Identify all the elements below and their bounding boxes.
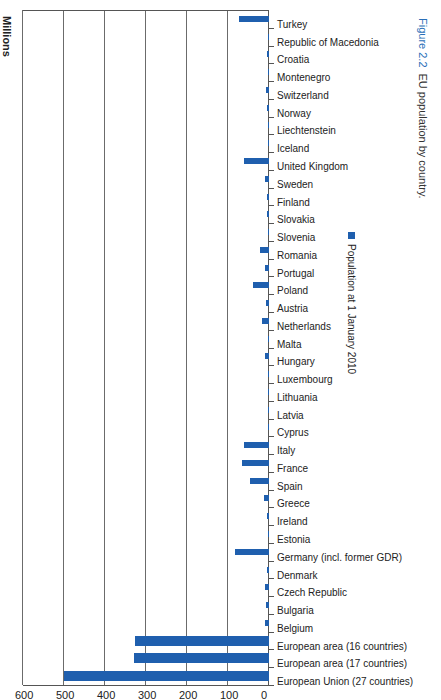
x-tick	[269, 63, 274, 64]
category-label: Germany (incl. former GDR)	[277, 552, 402, 563]
x-tick	[269, 525, 274, 526]
category-label: Portugal	[277, 268, 314, 279]
legend: Population at 1 January 2010	[346, 232, 357, 374]
category-label: European area (16 countries)	[277, 641, 407, 652]
bar	[262, 318, 269, 324]
bar	[268, 229, 269, 235]
category-label: Malta	[277, 339, 301, 350]
gridline	[63, 10, 64, 685]
y-tick-label: 600	[15, 689, 33, 700]
category-label: Croatia	[277, 54, 309, 65]
x-tick	[269, 490, 274, 491]
bar	[267, 513, 269, 519]
x-tick	[269, 99, 274, 100]
category-label: Austria	[277, 303, 308, 314]
bar	[265, 584, 269, 590]
gridline	[145, 10, 146, 685]
bar	[265, 176, 269, 182]
category-label: European area (17 countries)	[277, 658, 407, 669]
bar	[268, 140, 269, 146]
category-label: Republic of Macedonia	[277, 37, 379, 48]
x-tick	[269, 401, 274, 402]
category-label: France	[277, 463, 308, 474]
x-tick	[269, 561, 274, 562]
x-tick	[269, 223, 274, 224]
chart-canvas: Millions Population at 1 January 2010 Fi…	[0, 0, 441, 700]
y-tick-label: 0	[261, 689, 267, 700]
category-label: Finland	[277, 197, 310, 208]
category-label: Switzerland	[277, 90, 329, 101]
category-label: Spain	[277, 481, 303, 492]
category-label: Sweden	[277, 179, 313, 190]
x-tick	[269, 28, 274, 29]
y-tick-label: 400	[97, 689, 115, 700]
bar	[260, 247, 269, 253]
x-tick	[269, 578, 274, 579]
category-label: Montenegro	[277, 72, 330, 83]
category-label: Turkey	[277, 19, 307, 30]
category-label: Poland	[277, 285, 308, 296]
x-tick	[269, 205, 274, 206]
category-label: Bulgaria	[277, 605, 314, 616]
x-tick	[269, 276, 274, 277]
bar	[265, 265, 269, 271]
x-tick	[269, 632, 274, 633]
x-tick	[269, 330, 274, 331]
bar	[266, 602, 269, 608]
x-tick	[269, 134, 274, 135]
category-label: Greece	[277, 498, 310, 509]
plot-frame	[23, 685, 269, 686]
category-label: Norway	[277, 108, 311, 119]
bar	[268, 424, 269, 430]
bar	[268, 389, 269, 395]
x-tick	[269, 241, 274, 242]
bar	[268, 371, 269, 377]
x-tick	[269, 46, 274, 47]
x-tick	[269, 454, 274, 455]
x-tick	[269, 436, 274, 437]
x-tick	[269, 614, 274, 615]
bar	[267, 194, 269, 200]
legend-swatch	[348, 232, 355, 239]
y-tick-label: 500	[56, 689, 74, 700]
category-label: European Union (27 countries)	[277, 676, 413, 687]
gridline	[227, 10, 228, 685]
category-label: Latvia	[277, 410, 304, 421]
category-label: Cyprus	[277, 427, 309, 438]
category-label: Iceland	[277, 143, 309, 154]
x-tick	[269, 419, 274, 420]
x-tick	[269, 152, 274, 153]
bar	[268, 407, 269, 413]
bar	[244, 442, 269, 448]
caption-text: EU population by country.	[417, 74, 429, 199]
category-label: United Kingdom	[277, 161, 348, 172]
category-label: Hungary	[277, 356, 315, 367]
bar	[242, 460, 269, 466]
gridline	[22, 10, 23, 685]
x-tick	[269, 348, 274, 349]
bar	[250, 478, 269, 484]
category-label: Italy	[277, 445, 295, 456]
figure-number: Figure 2.2	[417, 18, 429, 68]
category-label: Slovenia	[277, 232, 315, 243]
x-tick	[269, 472, 274, 473]
category-label: Luxembourg	[277, 374, 333, 385]
x-tick	[269, 596, 274, 597]
x-tick	[269, 507, 274, 508]
x-tick	[269, 667, 274, 668]
bar	[134, 653, 269, 663]
bar	[239, 16, 269, 22]
plot-frame	[23, 10, 269, 11]
x-tick	[269, 312, 274, 313]
x-tick	[269, 81, 274, 82]
bar	[267, 105, 269, 111]
bar	[267, 211, 269, 217]
bar	[266, 300, 269, 306]
x-tick	[269, 117, 274, 118]
y-axis-label: Millions	[1, 16, 13, 57]
category-label: Belgium	[277, 623, 313, 634]
category-label: Netherlands	[277, 321, 331, 332]
figure-caption: Figure 2.2EU population by country.	[417, 18, 429, 199]
gridline	[186, 10, 187, 685]
bar	[235, 549, 269, 555]
